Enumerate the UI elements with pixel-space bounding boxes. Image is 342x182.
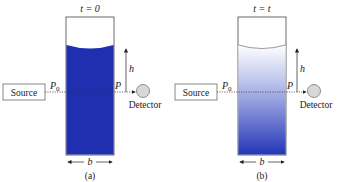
source-label: Source	[11, 88, 37, 98]
detector-label: Detector	[300, 100, 334, 110]
liquid-fill	[238, 45, 285, 155]
p-label: P	[286, 80, 293, 91]
width-label: b	[88, 156, 93, 167]
detector-icon	[137, 85, 150, 98]
liquid-fill	[66, 45, 113, 155]
height-label: h	[129, 63, 134, 74]
panel-caption: (a)	[85, 171, 96, 182]
detector-label: Detector	[129, 100, 163, 110]
panel-b: t = t h Source P0 P Detector b (b)	[175, 3, 333, 182]
time-label: t = t	[253, 3, 271, 14]
panel-caption: (b)	[256, 171, 267, 182]
detector-icon	[308, 85, 321, 98]
p-label: P	[114, 80, 121, 91]
height-label: h	[300, 63, 305, 74]
panel-a: t = 0 h Source P0 P Detector b (a)	[3, 3, 162, 182]
source-label: Source	[183, 88, 209, 98]
width-label: b	[260, 156, 265, 167]
p0-label: P0	[221, 80, 232, 93]
p0-label: P0	[49, 80, 60, 93]
time-label: t = 0	[80, 3, 100, 14]
